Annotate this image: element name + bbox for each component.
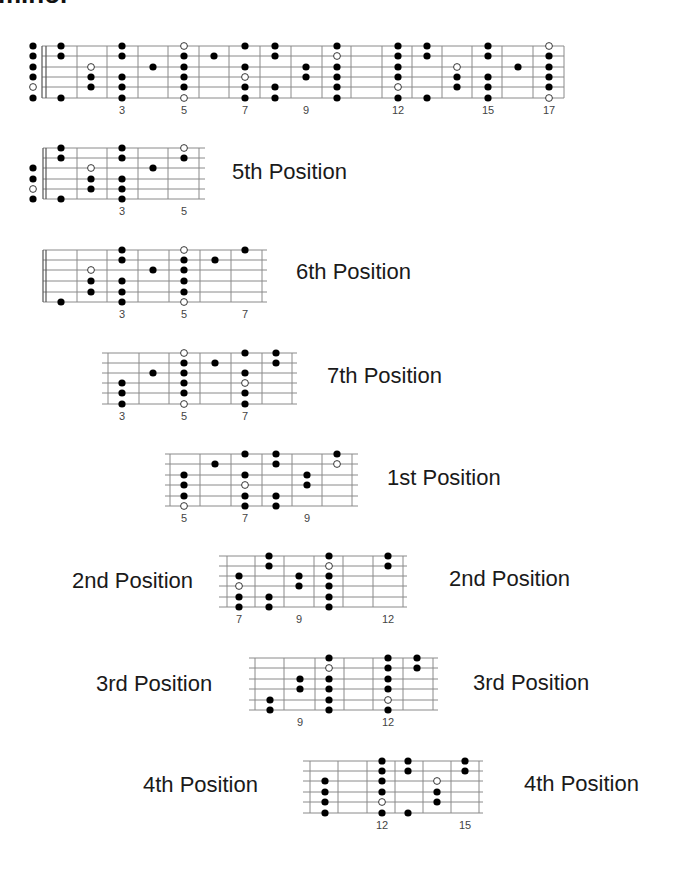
note-dot — [384, 654, 391, 661]
note-dot — [118, 195, 125, 202]
note-dot — [241, 246, 248, 253]
root-note-open-dot — [30, 84, 37, 91]
fret-number: 3 — [119, 308, 125, 320]
fretboard-4th-position: 1215 — [303, 757, 483, 831]
note-dot — [87, 185, 94, 192]
fret-number: 7 — [242, 410, 248, 422]
note-dot — [384, 664, 391, 671]
note-dot — [57, 42, 64, 49]
note-dot — [461, 757, 468, 764]
position-label: 3rd Position — [96, 673, 212, 695]
note-dot — [321, 788, 328, 795]
note-dot — [461, 767, 468, 774]
note-dot — [295, 582, 302, 589]
note-dot — [211, 460, 218, 467]
note-dot — [57, 144, 64, 151]
root-note-open-dot — [181, 401, 188, 408]
fret-number: 5 — [181, 205, 187, 217]
root-note-open-dot — [181, 299, 188, 306]
root-note-open-dot — [546, 43, 553, 50]
note-dot — [413, 664, 420, 671]
note-dot — [272, 502, 279, 509]
root-note-open-dot — [181, 503, 188, 510]
position-label: 5th Position — [232, 161, 347, 183]
root-note-open-dot — [181, 43, 188, 50]
note-dot — [118, 144, 125, 151]
note-dot — [118, 52, 125, 59]
note-dot — [484, 52, 491, 59]
note-dot — [180, 492, 187, 499]
note-dot — [29, 42, 36, 49]
note-dot — [29, 63, 36, 70]
root-note-open-dot — [88, 165, 95, 172]
note-dot — [241, 502, 248, 509]
fretboard-2nd-position: 7912 — [219, 552, 407, 625]
root-note-open-dot — [434, 778, 441, 785]
note-dot — [210, 52, 217, 59]
note-dot — [378, 757, 385, 764]
note-dot — [29, 195, 36, 202]
note-dot — [118, 73, 125, 80]
position-label: 2nd Position — [72, 570, 193, 592]
note-dot — [266, 706, 273, 713]
note-dot — [235, 572, 242, 579]
note-dot — [87, 288, 94, 295]
fretboard-3rd-position: 912 — [249, 654, 438, 728]
note-dot — [241, 471, 248, 478]
note-dot — [211, 256, 218, 263]
note-dot — [321, 777, 328, 784]
note-dot — [404, 757, 411, 764]
note-dot — [514, 63, 521, 70]
note-dot — [325, 582, 332, 589]
note-dot — [241, 42, 248, 49]
note-dot — [57, 154, 64, 161]
note-dot — [265, 593, 272, 600]
note-dot — [378, 767, 385, 774]
note-dot — [453, 83, 460, 90]
note-dot — [295, 572, 302, 579]
fret-number: 9 — [297, 716, 303, 728]
note-dot — [423, 42, 430, 49]
note-dot — [272, 492, 279, 499]
fret-number: 3 — [119, 410, 125, 422]
note-dot — [180, 154, 187, 161]
root-note-open-dot — [242, 74, 249, 81]
scale-diagrams: 35791215173535735757979129121215 — [0, 0, 689, 874]
note-dot — [545, 83, 552, 90]
note-dot — [325, 696, 332, 703]
root-note-open-dot — [181, 95, 188, 102]
note-dot — [394, 63, 401, 70]
note-dot — [149, 164, 156, 171]
note-dot — [384, 562, 391, 569]
note-dot — [265, 603, 272, 610]
note-dot — [484, 94, 491, 101]
note-dot — [453, 73, 460, 80]
note-dot — [235, 593, 242, 600]
note-dot — [180, 63, 187, 70]
note-dot — [325, 654, 332, 661]
note-dot — [545, 63, 552, 70]
note-dot — [384, 675, 391, 682]
position-label: 7th Position — [327, 365, 442, 387]
note-dot — [241, 400, 248, 407]
note-dot — [241, 492, 248, 499]
note-dot — [57, 52, 64, 59]
note-dot — [180, 256, 187, 263]
fret-number: 7 — [242, 104, 248, 116]
note-dot — [394, 94, 401, 101]
note-dot — [265, 552, 272, 559]
note-dot — [265, 562, 272, 569]
note-dot — [29, 164, 36, 171]
note-dot — [302, 63, 309, 70]
note-dot — [180, 379, 187, 386]
fret-number: 12 — [376, 819, 388, 831]
note-dot — [302, 73, 309, 80]
note-dot — [378, 788, 385, 795]
note-dot — [266, 696, 273, 703]
note-dot — [272, 460, 279, 467]
note-dot — [271, 94, 278, 101]
note-dot — [118, 246, 125, 253]
note-dot — [180, 471, 187, 478]
fret-number: 12 — [392, 104, 404, 116]
note-dot — [87, 277, 94, 284]
